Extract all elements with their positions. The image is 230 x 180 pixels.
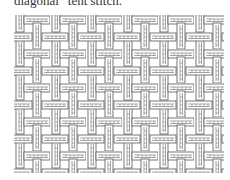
basketweave-diagram — [0, 0, 230, 180]
